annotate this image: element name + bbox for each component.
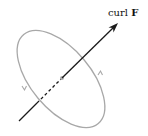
axis-upper-segment xyxy=(62,28,113,78)
diagram-canvas xyxy=(0,0,148,136)
curl-f-label: curl F xyxy=(108,7,138,18)
axis-lower-segment xyxy=(19,103,37,121)
curl-label-prefix: curl xyxy=(108,7,131,18)
loop-curve xyxy=(1,15,122,136)
curl-diagram: curl F xyxy=(0,0,148,136)
loop-arrow-right-icon xyxy=(98,71,103,75)
loop-arrow-left-icon xyxy=(22,86,27,90)
curl-label-symbol: F xyxy=(131,7,138,18)
axis-dashed-segment xyxy=(37,78,62,103)
